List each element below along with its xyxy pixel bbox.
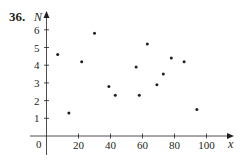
- data-point: [170, 57, 173, 60]
- data-point: [135, 65, 138, 68]
- data-point: [67, 111, 70, 114]
- data-point: [183, 60, 186, 63]
- origin-label: 0: [36, 138, 42, 150]
- data-point: [93, 32, 96, 35]
- x-axis-label: x: [227, 137, 234, 151]
- y-axis-arrow-icon: [44, 11, 50, 18]
- y-tick-label: 2: [34, 95, 40, 107]
- y-tick-label: 3: [34, 77, 40, 89]
- data-point: [155, 83, 158, 86]
- y-axis-label: N: [33, 10, 43, 24]
- problem-number: 36.: [9, 9, 25, 24]
- axes: [30, 11, 234, 155]
- scatter-plot: 36. x N 0 20406080100 123456: [0, 0, 252, 162]
- y-tick-label: 1: [34, 112, 40, 124]
- data-point: [195, 108, 198, 111]
- x-tick-label: 40: [105, 139, 117, 151]
- data-point: [80, 60, 83, 63]
- x-tick-label: 20: [73, 139, 85, 151]
- data-point: [146, 42, 149, 45]
- y-tick-label: 5: [34, 42, 40, 54]
- y-tick-label: 4: [34, 59, 40, 71]
- data-point: [162, 73, 165, 76]
- x-tick-label: 100: [198, 139, 215, 151]
- data-point: [138, 94, 141, 97]
- x-tick-label: 60: [137, 139, 149, 151]
- y-tick-label: 6: [34, 24, 40, 36]
- data-points: [56, 32, 198, 115]
- data-point: [56, 53, 59, 56]
- data-point: [107, 85, 110, 88]
- x-tick-label: 80: [169, 139, 181, 151]
- data-point: [114, 94, 117, 97]
